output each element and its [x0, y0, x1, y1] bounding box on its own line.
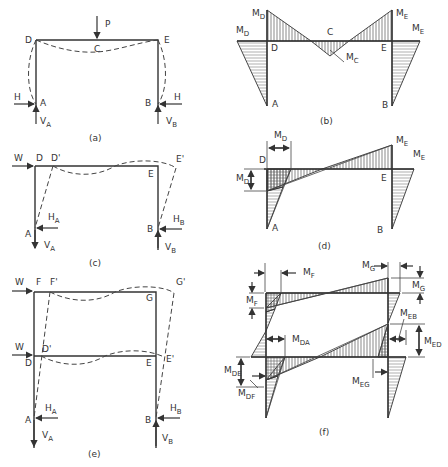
label-D: D	[259, 155, 266, 165]
label-E: E	[381, 173, 387, 183]
label-P: P	[105, 19, 111, 29]
caption-d: (d)	[318, 241, 331, 251]
caption-e: (e)	[88, 449, 101, 459]
caption-f: (f)	[319, 427, 329, 437]
label-W: W	[14, 153, 23, 163]
label-E: E	[381, 43, 387, 53]
label-ME-right: ME	[412, 23, 424, 36]
label-C: C	[327, 27, 333, 37]
label-D: D	[36, 153, 43, 163]
label-D: D	[271, 43, 278, 53]
label-D: D	[25, 358, 32, 368]
label-MC: MC	[346, 52, 359, 65]
panel-b: MD MD ME ME C MC D E A B (b)	[236, 8, 424, 126]
label-E: E	[146, 358, 152, 368]
label-MEB: MEB	[400, 308, 417, 321]
label-VA: VA	[42, 430, 53, 443]
caption-b: (b)	[320, 116, 333, 126]
label-MEG: MEG	[352, 376, 370, 389]
label-A: A	[40, 98, 47, 108]
label-ME-right: ME	[413, 149, 425, 162]
label-VA: VA	[44, 240, 55, 253]
label-MDA: MDA	[292, 334, 310, 347]
label-E: E	[164, 35, 170, 45]
label-HB: HB	[170, 403, 182, 416]
label-MG-top: MG	[362, 260, 375, 273]
label-VB: VB	[162, 433, 173, 446]
label-E: E	[148, 169, 154, 179]
panel-e: W F F' G G' W D D' E E' HA HB A B VA VB …	[12, 277, 185, 459]
label-E-prime: E'	[166, 354, 174, 364]
label-VB: VB	[165, 242, 176, 255]
label-W-mid: W	[15, 342, 24, 352]
label-MD-left: MD	[236, 173, 249, 186]
label-A: A	[272, 223, 279, 233]
label-D-prime: D'	[42, 344, 51, 354]
label-MG-right: MG	[412, 280, 425, 293]
panel-d: MD MD ME ME D E A B (d)	[236, 130, 425, 251]
label-HA: HA	[48, 212, 60, 225]
label-F-prime: F'	[50, 277, 58, 287]
label-B: B	[145, 415, 151, 425]
panel-a: P D E C H H A B VA VB (a)	[14, 16, 182, 143]
label-B: B	[377, 225, 383, 235]
label-MDE: MDE	[224, 365, 242, 378]
label-G-prime: G'	[176, 277, 185, 287]
label-D: D	[25, 35, 32, 45]
label-MD-top: MD	[252, 8, 265, 21]
label-F: F	[36, 277, 41, 287]
label-MED: MED	[424, 336, 442, 349]
label-HB: HB	[173, 214, 185, 227]
label-ME-top: ME	[396, 135, 408, 148]
label-B: B	[382, 100, 388, 110]
label-G: G	[146, 293, 153, 303]
label-HA: HA	[45, 403, 57, 416]
label-D-prime: D'	[51, 153, 60, 163]
label-H-left: H	[14, 92, 21, 102]
label-VB: VB	[166, 116, 177, 129]
label-H-right: H	[174, 92, 181, 102]
label-A: A	[272, 99, 279, 109]
caption-c: (c)	[89, 258, 101, 268]
label-MF-left: MF	[246, 295, 258, 308]
label-B: B	[147, 224, 153, 234]
label-E-prime: E'	[176, 154, 184, 164]
panel-f: MF MF MG MG MDA MDE MDF MEB MED MEG (f)	[224, 260, 442, 437]
caption-a: (a)	[89, 133, 102, 143]
label-MD-left: MD	[236, 25, 249, 38]
label-A: A	[25, 415, 32, 425]
label-B: B	[145, 98, 151, 108]
label-MDF: MDF	[238, 388, 255, 401]
frame-diagrams: P D E C H H A B VA VB (a) MD MD ME ME C …	[0, 0, 448, 467]
label-C: C	[94, 44, 100, 54]
panel-c: W D D' E E' HA HB A B VA VB (c)	[12, 153, 185, 268]
label-MD-top: MD	[274, 130, 287, 143]
label-ME-top: ME	[396, 8, 408, 21]
label-MF-top: MF	[303, 267, 315, 280]
label-A: A	[25, 229, 32, 239]
label-W-top: W	[15, 277, 24, 287]
label-VA: VA	[40, 116, 51, 129]
